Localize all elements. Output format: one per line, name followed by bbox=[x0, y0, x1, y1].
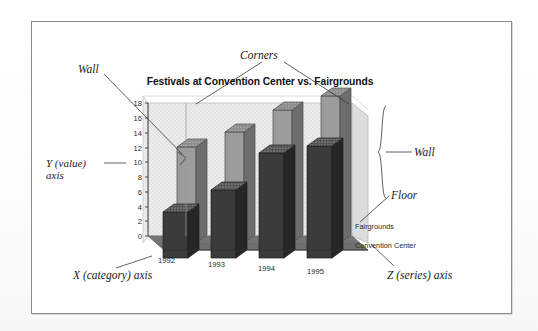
y-tick-label: 4 bbox=[126, 203, 142, 212]
bar-convention-center-1995 bbox=[307, 138, 343, 258]
x-tick-label: 1993 bbox=[208, 260, 225, 269]
annotation-z-axis: Z (series) axis bbox=[387, 269, 452, 282]
y-tick-label: 16 bbox=[126, 114, 142, 123]
scanned-page: Festivals at Convention Center vs. Fairg… bbox=[0, 0, 538, 331]
chart-title: Festivals at Convention Center vs. Fairg… bbox=[140, 76, 380, 87]
annotation-y-axis-line2: axis bbox=[46, 169, 86, 181]
bar-convention-center-1993 bbox=[211, 182, 247, 258]
y-tick-label: 2 bbox=[126, 217, 142, 226]
figure-stage: Festivals at Convention Center vs. Fairg… bbox=[0, 0, 538, 331]
y-tick-label: 6 bbox=[126, 188, 142, 197]
annotation-floor: Floor bbox=[391, 189, 417, 202]
annotation-wall-left: Wall bbox=[78, 63, 99, 76]
y-tick-label: 14 bbox=[126, 129, 142, 138]
z-tick-label-convention-center: Convention Center bbox=[355, 241, 416, 250]
y-tick-label: 12 bbox=[126, 144, 142, 153]
z-tick-label-fairgrounds: Fairgrounds bbox=[355, 222, 394, 231]
annotation-y-axis-line1: Y (value) bbox=[46, 157, 86, 169]
x-tick-label: 1995 bbox=[307, 267, 324, 276]
annotation-x-axis: X (category) axis bbox=[73, 269, 152, 282]
y-tick-label: 18 bbox=[126, 99, 142, 108]
x-tick-label: 1992 bbox=[158, 256, 175, 265]
bar-convention-center-1994 bbox=[259, 145, 295, 258]
y-tick-label: 8 bbox=[126, 173, 142, 182]
y-tick-label: 10 bbox=[126, 158, 142, 167]
x-tick-label: 1994 bbox=[258, 264, 275, 273]
y-tick-label: 0 bbox=[126, 232, 142, 241]
annotation-wall-right: Wall bbox=[414, 146, 435, 159]
annotation-corners: Corners bbox=[240, 49, 278, 62]
annotation-y-axis: Y (value) axis bbox=[46, 157, 86, 182]
